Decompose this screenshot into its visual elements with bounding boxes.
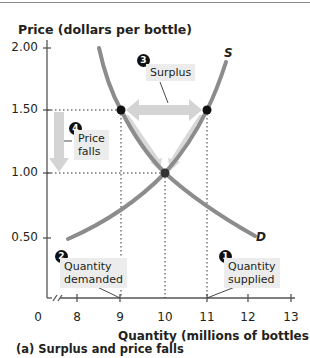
point-supplied xyxy=(203,106,212,115)
callout-quantity-supplied: Quantity supplied xyxy=(224,258,280,288)
callout-surplus: Surplus xyxy=(146,64,195,81)
callout-text: Price xyxy=(78,132,105,145)
x-tick-label: 12 xyxy=(238,310,258,324)
point-equilibrium xyxy=(161,169,170,178)
y-tick-label: 2.00 xyxy=(8,40,38,54)
y-tick-label: 1.00 xyxy=(8,165,38,179)
y-tick-label: 1.50 xyxy=(8,102,38,116)
callout-text: supplied xyxy=(228,273,276,286)
callout-price-falls: Price falls xyxy=(74,130,109,160)
x-tick-label: 8 xyxy=(67,310,87,324)
callout-text: demanded xyxy=(64,273,123,286)
demand-label: D xyxy=(256,230,266,244)
y-axis-label: Price (dollars per bottle) xyxy=(18,22,192,37)
x-tick-label: 0 xyxy=(28,310,48,324)
surplus-arrow xyxy=(126,99,202,121)
figure-caption: (a) Surplus and price falls xyxy=(16,342,184,356)
callout-text: Quantity xyxy=(228,260,276,273)
y-tick-label: 0.50 xyxy=(8,230,38,244)
callout-text: Surplus xyxy=(150,66,191,79)
supply-label: S xyxy=(224,46,233,60)
price-falls-arrow xyxy=(49,112,69,172)
x-tick-label: 11 xyxy=(197,310,217,324)
x-axis-label: Quantity (millions of bottles per day) xyxy=(118,329,310,343)
point-demanded xyxy=(117,106,126,115)
x-tick-label: 13 xyxy=(281,310,301,324)
x-tick-label: 10 xyxy=(155,310,175,324)
callout-text: Quantity xyxy=(64,260,123,273)
x-tick-label: 9 xyxy=(110,310,130,324)
chart-plot xyxy=(0,0,310,358)
callout-text: falls xyxy=(78,145,105,158)
callout-quantity-demanded: Quantity demanded xyxy=(60,258,127,288)
